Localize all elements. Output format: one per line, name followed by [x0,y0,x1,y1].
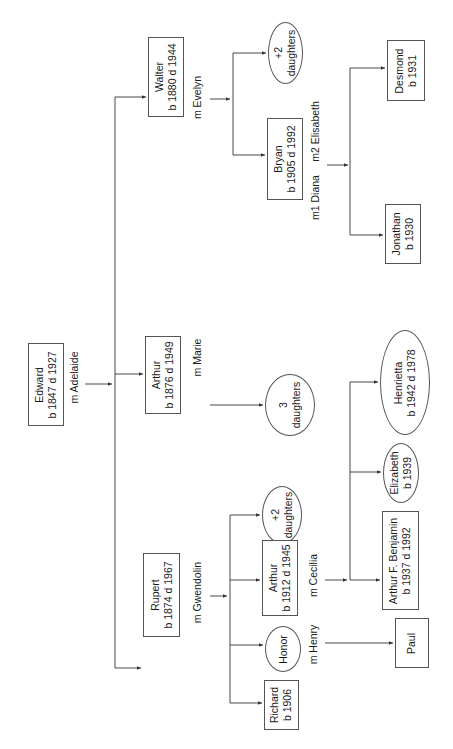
person-dates: b 1930 [403,218,416,250]
person-name: Honor [276,635,289,664]
person-name: Walter [153,62,166,92]
spouse-label-adelaide: m Adelaide [66,352,84,402]
person-name: Jonathan [390,212,403,255]
person-honor: Honor [265,626,301,672]
person-dates: b 1912 d 1945 [280,544,293,611]
spouse-label-marie: m Marie [189,335,207,380]
person-henrietta: Henriettab 1942 d 1978 [380,330,430,435]
spouse-label-henry: m Henry [305,622,323,667]
person-name: Edward [33,367,46,403]
person-name: Elizabeth [388,451,401,494]
person-name: Desmond [393,48,406,93]
person-name: Bryan [272,145,285,172]
person-arthur-1912: Arthurb 1912 d 1945 [262,540,298,616]
person-dates: b 1931 [406,54,419,86]
person-name: Richard [269,687,282,723]
person-desmond: Desmondb 1931 [387,40,425,101]
person-jonathan: Jonathanb 1930 [385,204,421,264]
person-name: Henrietta [392,361,405,404]
person-dates: b 1874 d 1967 [162,561,175,628]
person-rupert: Rupertb 1874 d 1967 [143,553,180,637]
person-edward: Edwardb 1847 d 1927 [28,343,64,426]
person-dates: b 1905 d 1992 [285,125,298,192]
person-arthur-1876: Arthurb 1876 d 1949 [145,336,181,414]
person-dates: b 1880 d 1944 [166,43,179,110]
person-dates: b 1876 d 1949 [163,341,176,408]
group-rupert-daughters: +2daughters [262,486,302,544]
person-name: Arthur F. Benjamin [388,517,401,603]
person-dates: b 1906 [282,689,295,721]
person-name: Paul [405,632,418,653]
person-name: Rupert [149,579,162,611]
group-arthur-daughters: 3daughters [265,374,315,436]
person-richard: Richardb 1906 [264,680,299,730]
person-arthur-f-benjamin: Arthur F. Benjaminb 1937 d 1992 [382,511,419,610]
person-dates: b 1847 d 1927 [46,351,59,418]
spouse-label-elisabeth: m2 Elisabeth [306,95,324,167]
spouse-label-cecilia: m Cecilia [305,550,323,600]
person-dates: b 1939 [401,457,414,489]
person-walter: Walterb 1880 d 1944 [148,37,184,117]
group-walter-daughters: +2daughters [268,22,303,84]
spouse-label-gwendolin: m Gwendolin [189,560,207,625]
person-dates: b 1942 d 1978 [405,349,418,416]
person-dates: b 1937 d 1992 [401,527,414,594]
person-bryan: Bryanb 1905 d 1992 [267,118,303,200]
person-name: Arthur [150,361,163,390]
person-paul: Paul [395,618,429,668]
person-elizabeth: Elizabethb 1939 [383,443,419,503]
person-name: Arthur [267,564,280,593]
spouse-label-evelyn: m Evelyn [189,75,207,120]
spouse-label-diana: m1 Diana [306,170,324,225]
